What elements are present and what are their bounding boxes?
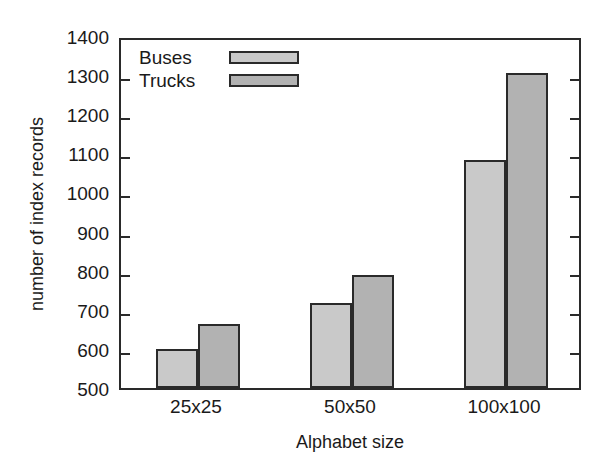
y-axis-tick-mark bbox=[121, 353, 130, 355]
legend-label: Buses bbox=[139, 47, 229, 69]
legend-item-buses: Buses bbox=[139, 46, 329, 69]
y-axis-tick-mark bbox=[570, 157, 579, 159]
bar-chart-figure: number of index records BusesTrucks 5006… bbox=[0, 0, 611, 471]
bar-buses-50x50 bbox=[310, 303, 352, 388]
y-axis-tick-mark bbox=[570, 118, 579, 120]
bar-buses-100x100 bbox=[464, 160, 506, 388]
y-axis-tick-mark bbox=[570, 353, 579, 355]
legend-swatch bbox=[229, 74, 299, 87]
y-axis-tick-label: 1000 bbox=[43, 184, 109, 203]
y-axis-title: number of index records bbox=[22, 38, 52, 390]
y-axis-tick-mark bbox=[121, 118, 130, 120]
y-axis-tick-label: 700 bbox=[43, 302, 109, 321]
x-axis-tick-label: 50x50 bbox=[270, 396, 430, 418]
y-axis-tick-mark bbox=[570, 275, 579, 277]
legend-item-trucks: Trucks bbox=[139, 69, 329, 92]
y-axis-tick-mark bbox=[121, 79, 130, 81]
plot-area: BusesTrucks bbox=[119, 38, 581, 390]
y-axis-tick-label: 900 bbox=[43, 224, 109, 243]
bar-trucks-50x50 bbox=[352, 275, 394, 388]
y-axis-tick-mark bbox=[570, 314, 579, 316]
x-axis-tick-label: 100x100 bbox=[424, 396, 584, 418]
y-axis-tick-label: 1200 bbox=[43, 106, 109, 125]
y-axis-tick-label: 1400 bbox=[43, 28, 109, 47]
bar-buses-25x25 bbox=[156, 349, 198, 388]
y-axis-tick-mark bbox=[121, 196, 130, 198]
y-axis-tick-label: 1300 bbox=[43, 67, 109, 86]
y-axis-tick-label: 600 bbox=[43, 341, 109, 360]
y-axis-tick-mark bbox=[121, 314, 130, 316]
bar-trucks-100x100 bbox=[506, 73, 548, 388]
y-axis-tick-label: 1100 bbox=[43, 145, 109, 164]
y-axis-tick-label: 500 bbox=[43, 380, 109, 399]
y-axis-tick-mark bbox=[121, 236, 130, 238]
legend-label: Trucks bbox=[139, 70, 229, 92]
x-axis-title: Alphabet size bbox=[119, 432, 581, 453]
chart-legend: BusesTrucks bbox=[139, 46, 329, 92]
y-axis-tick-mark bbox=[570, 79, 579, 81]
y-axis-tick-mark bbox=[121, 157, 130, 159]
x-axis-tick-label: 25x25 bbox=[116, 396, 276, 418]
y-axis-tick-mark bbox=[570, 196, 579, 198]
y-axis-tick-mark bbox=[570, 236, 579, 238]
y-axis-tick-label: 800 bbox=[43, 263, 109, 282]
y-axis-tick-mark bbox=[121, 275, 130, 277]
legend-swatch bbox=[229, 51, 299, 64]
bar-trucks-25x25 bbox=[198, 324, 240, 388]
